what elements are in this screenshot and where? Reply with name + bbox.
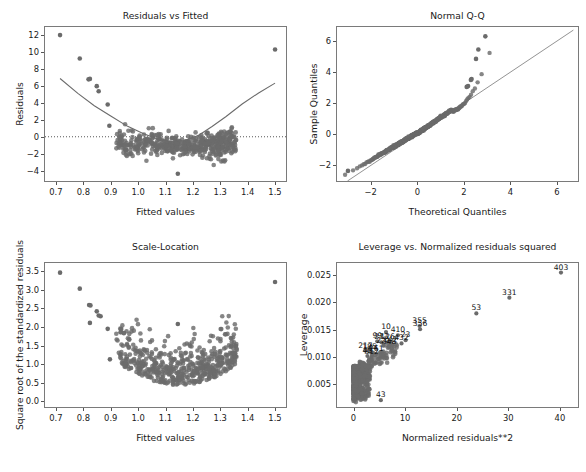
plot-panel-leverage-vs-normalized-residuals-squared: Leverage vs. Normalized residuals square… [0, 0, 586, 472]
diagnostic-plots-figure: Residuals vs Fitted0.70.80.91.01.11.21.3… [0, 0, 586, 472]
y-axis-label-leverage-vs-normalized-residuals-squared: Leverage [298, 232, 309, 438]
